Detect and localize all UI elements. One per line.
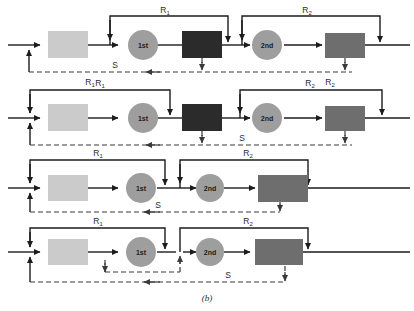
row1-dashed-group <box>29 58 352 72</box>
row3-box-light <box>48 175 88 201</box>
row1-label-s: S <box>112 60 118 70</box>
row3-label-r2: R2 <box>243 148 253 159</box>
row2-box-medium <box>325 106 365 131</box>
row1-box-medium <box>325 33 365 58</box>
row2-stage-1st-label: 1st <box>138 115 149 122</box>
row1-label-r2-dashed: R2 <box>325 77 335 88</box>
row4-stage-2nd-label: 2nd <box>204 249 216 256</box>
row2-label-s: S <box>239 133 245 143</box>
row4-label-r2: R2 <box>243 216 253 227</box>
row2-dashed-group <box>30 131 352 145</box>
row3-label-s: S <box>155 200 161 210</box>
row2-box-light <box>48 104 88 131</box>
row2-box-dark <box>182 104 222 131</box>
row2-label-r1: R1 <box>95 78 105 89</box>
row4-label-r1: R1 <box>93 216 103 227</box>
row3-label-r1: R1 <box>93 148 103 159</box>
figure-caption: (b) <box>202 293 213 303</box>
block-diagram-figure: 1st 2nd 1st 2nd 1st 2nd 1st 2nd R1 R2 S … <box>0 0 414 311</box>
row3-stage-1st-label: 1st <box>136 185 147 192</box>
row3-box-medium <box>258 175 308 202</box>
row1-stage-1st-label: 1st <box>138 42 149 49</box>
row1-box-dark <box>182 31 222 58</box>
row4-box-light <box>48 239 88 265</box>
row2-stage-2nd-label: 2nd <box>261 115 273 122</box>
row1-label-r2: R2 <box>302 5 312 16</box>
row4-box-medium <box>255 239 303 265</box>
row1-label-r1-dashed: R1 <box>85 77 95 88</box>
row1-box-light <box>48 31 88 58</box>
row4-label-s: S <box>225 270 231 280</box>
row3-stage-2nd-label: 2nd <box>204 185 216 192</box>
row1-stage-2nd-label: 2nd <box>261 42 273 49</box>
row2-label-r2: R2 <box>305 78 315 89</box>
diagram-canvas: 1st 2nd 1st 2nd 1st 2nd 1st 2nd R1 R2 S … <box>0 0 414 311</box>
row1-label-r1: R1 <box>160 5 170 16</box>
row4-stage-1st-label: 1st <box>136 249 147 256</box>
